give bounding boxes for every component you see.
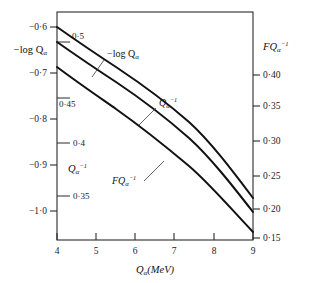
right-tick-label-1: 0·35 — [263, 101, 281, 111]
left-axis-title: −log Qα — [14, 44, 48, 57]
x-tick-label-2: 6 — [133, 246, 138, 256]
x-axis-title-tail: (MeV) — [147, 264, 174, 276]
right-tick-label-5: 0·15 — [263, 233, 281, 243]
right-tick-label-2: 0·30 — [263, 136, 281, 146]
left-axis-ticks — [50, 27, 57, 211]
inner-axis-tick-labels: 0·5 0·45 0·4 0·35 — [59, 31, 90, 201]
left-tick-label-2: −0·8 — [29, 114, 47, 124]
left-tick-label-0: −0·6 — [29, 22, 47, 32]
right-axis-title-sup: −1 — [281, 40, 289, 47]
chart-svg: −0·6 −0·7 −0·8 −0·9 −1·0 −log Qα 0·5 0·4… — [0, 0, 321, 283]
callout-leader-middle — [139, 108, 156, 125]
right-tick-label-3: 0·25 — [263, 171, 281, 181]
x-tick-label-3: 7 — [172, 246, 177, 256]
x-axis-tick-labels: 4 5 6 7 8 9 — [55, 246, 256, 256]
x-axis-title: Qα(MeV) — [136, 264, 175, 277]
left-axis-title-main: −log Q — [14, 44, 44, 55]
x-tick-label-0: 4 — [55, 246, 60, 256]
left-axis-title-sub: α — [43, 49, 47, 57]
curve-label-neg-log-q: −log Qα — [107, 48, 139, 60]
inner-axis-title: Qα−1 — [68, 162, 87, 176]
right-tick-label-4: 0·20 — [263, 204, 281, 214]
inner-tick-label-3: 0·35 — [73, 191, 90, 201]
curve-label-top-main: −log Q — [107, 48, 136, 59]
curve-label-bot-sup: −1 — [129, 174, 136, 181]
curve-label-q-inverse: Qα−1 — [159, 96, 177, 109]
figure-page: −0·6 −0·7 −0·8 −0·9 −1·0 −log Qα 0·5 0·4… — [0, 0, 321, 283]
curve-label-bot-main: FQ — [111, 175, 126, 186]
inner-axis-title-sub: α — [76, 168, 80, 176]
right-axis-tick-labels: 0·40 0·35 0·30 0·25 0·20 0·15 — [263, 70, 281, 243]
inner-tick-label-2: 0·4 — [73, 138, 85, 148]
inner-axis-title-sup: −1 — [79, 162, 87, 169]
inner-tick-label-1: 0·45 — [59, 99, 76, 109]
x-tick-label-4: 8 — [212, 246, 217, 256]
curve-label-mid-sup: −1 — [170, 96, 177, 103]
right-tick-label-0: 0·40 — [263, 70, 281, 80]
curve-q-inverse — [57, 42, 253, 212]
curve-label-bot-sub: α — [125, 180, 129, 187]
right-axis-title: FQα−1 — [262, 40, 288, 54]
callout-leader-bottom — [144, 161, 164, 181]
left-tick-label-4: −1·0 — [29, 206, 47, 216]
curve-fq-inverse — [57, 67, 253, 232]
x-axis-ticks — [57, 233, 253, 240]
x-tick-label-5: 9 — [251, 246, 256, 256]
curve-label-fq-inverse: FQα−1 — [111, 174, 136, 187]
left-tick-label-1: −0·7 — [29, 68, 47, 78]
curve-label-mid-sub: α — [166, 102, 170, 109]
right-axis-title-main: FQ — [262, 41, 277, 52]
curve-neg-log-q — [57, 27, 253, 198]
right-axis-title-sub: α — [277, 46, 281, 54]
chart-figure: −0·6 −0·7 −0·8 −0·9 −1·0 −log Qα 0·5 0·4… — [0, 0, 321, 283]
left-tick-label-3: −0·9 — [29, 160, 47, 170]
right-axis-ticks — [253, 75, 260, 238]
curve-label-top-sub: α — [135, 53, 139, 60]
x-tick-label-1: 5 — [94, 246, 99, 256]
